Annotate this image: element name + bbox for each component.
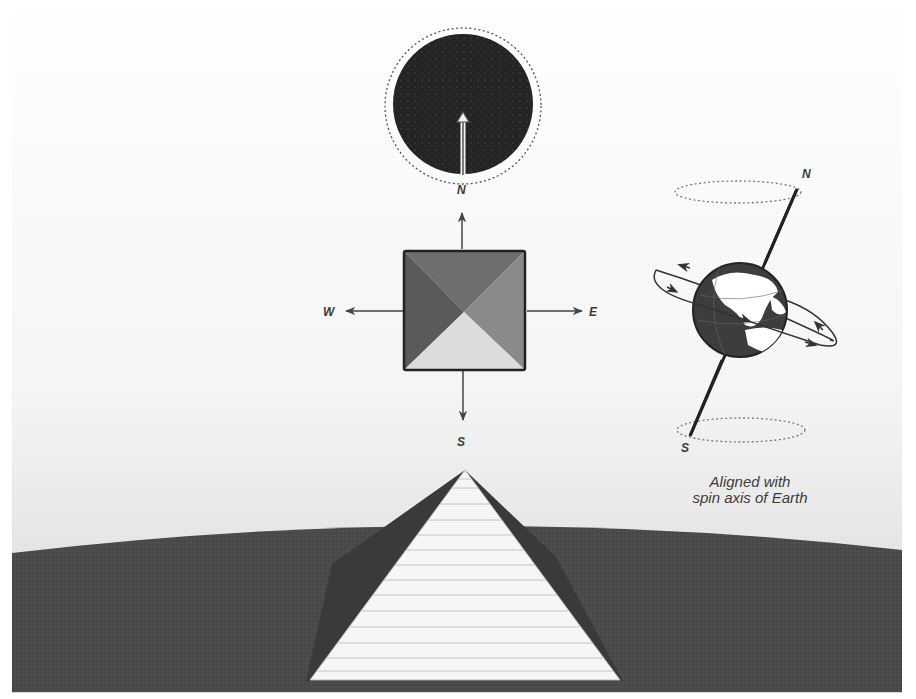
pyramid-orientation-diagram: N S W E [0, 0, 916, 699]
axis-alignment-caption: Aligned with spin axis of Earth [660, 474, 840, 506]
east-label: E [589, 305, 598, 319]
south-label: S [457, 435, 465, 449]
caption-line-1: Aligned with [660, 474, 840, 490]
pyramid-top-view [404, 251, 525, 370]
north-label: N [457, 183, 466, 197]
earth-axis-south-label: S [681, 441, 689, 455]
diagram-canvas: N S W E [0, 0, 916, 699]
earth-axis-north-label: N [802, 167, 811, 181]
caption-line-2: spin axis of Earth [660, 490, 840, 506]
west-label: W [323, 305, 336, 319]
earth-globe-icon [693, 263, 787, 357]
